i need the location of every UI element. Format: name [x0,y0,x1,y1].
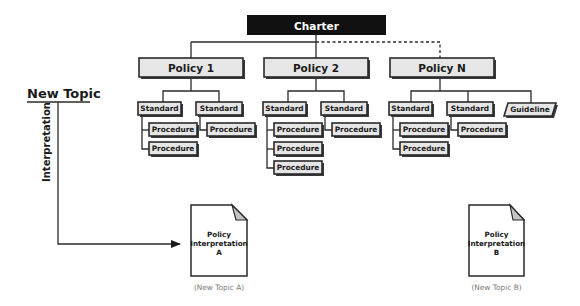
procedure-label: Procedure [277,125,320,134]
procedure-node: Procedure [274,123,324,138]
procedure-label: Procedure [210,125,253,134]
procedure-label: Procedure [335,125,378,134]
policy-interpretation-document-b: Policy Interpretation B (New Topic B) [468,205,525,292]
policy-interpretation-document-a: Policy Interpretation A (New Topic A) [190,205,247,292]
procedure-label: Procedure [152,125,195,134]
standard-node: Standard [138,102,183,117]
policy-1-branch-line [163,91,219,102]
standard-label: Standard [140,104,178,113]
standard-node: Standard [389,102,434,117]
policy-label: Policy 2 [293,62,339,74]
new-topic-label: New Topic [27,86,101,101]
charter-node: Charter [247,15,386,35]
std-2a-procedure-line [267,115,274,168]
procedure-node: Procedure [274,161,324,176]
procedure-label: Procedure [277,163,320,172]
interpretation-label: Interpretation [41,102,52,182]
procedure-node: Procedure [149,142,199,157]
document-caption: (New Topic A) [194,283,244,292]
procedure-node: Procedure [149,123,199,138]
standard-label: Standard [200,104,238,113]
guideline-label: Guideline [510,105,550,114]
standard-label: Standard [265,104,303,113]
policy-2-branch-line [288,91,344,102]
document-title-line: Interpretation [190,239,247,248]
policy-n-dashed-line [316,42,440,58]
standard-node: Standard [263,102,308,117]
policy-n-branch-line [411,91,531,103]
document-title-line: Policy [484,230,508,239]
policy-node-2: Policy 2 [264,58,370,79]
std-nb-procedure-line [451,115,458,130]
policy-node-1: Policy 1 [139,58,245,79]
std-1b-procedure-line [200,115,207,130]
document-title-line: Policy [207,230,231,239]
document-title-line: A [216,248,222,257]
procedure-node: Procedure [458,123,508,138]
standard-node: Standard [447,102,495,117]
policy-label: Policy 1 [168,62,214,74]
policy-node-n: Policy N [390,58,496,79]
procedure-label: Procedure [403,125,446,134]
charter-label: Charter [294,20,340,32]
document-title-line: B [494,248,499,257]
procedure-node: Procedure [274,142,324,157]
procedure-label: Procedure [461,125,504,134]
std-na-procedure-line [393,115,400,149]
standard-node: Standard [196,102,244,117]
std-2b-procedure-line [325,115,332,130]
standard-label: Standard [325,104,363,113]
procedure-node: Procedure [400,142,450,157]
std-1a-procedure-line [142,115,149,149]
guideline-node: Guideline [504,103,558,118]
procedure-node: Procedure [207,123,257,138]
procedure-node: Procedure [332,123,382,138]
policy-label: Policy N [418,62,466,74]
policy-hierarchy-diagram: Charter Policy 1 Policy 2 Policy N Stand… [0,0,580,306]
standard-node: Standard [321,102,369,117]
document-title-line: Interpretation [468,239,525,248]
procedure-label: Procedure [403,144,446,153]
standard-label: Standard [451,104,489,113]
standard-label: Standard [391,104,429,113]
procedure-label: Procedure [152,144,195,153]
procedure-node: Procedure [400,123,450,138]
document-caption: (New Topic B) [471,283,521,292]
procedure-label: Procedure [277,144,320,153]
